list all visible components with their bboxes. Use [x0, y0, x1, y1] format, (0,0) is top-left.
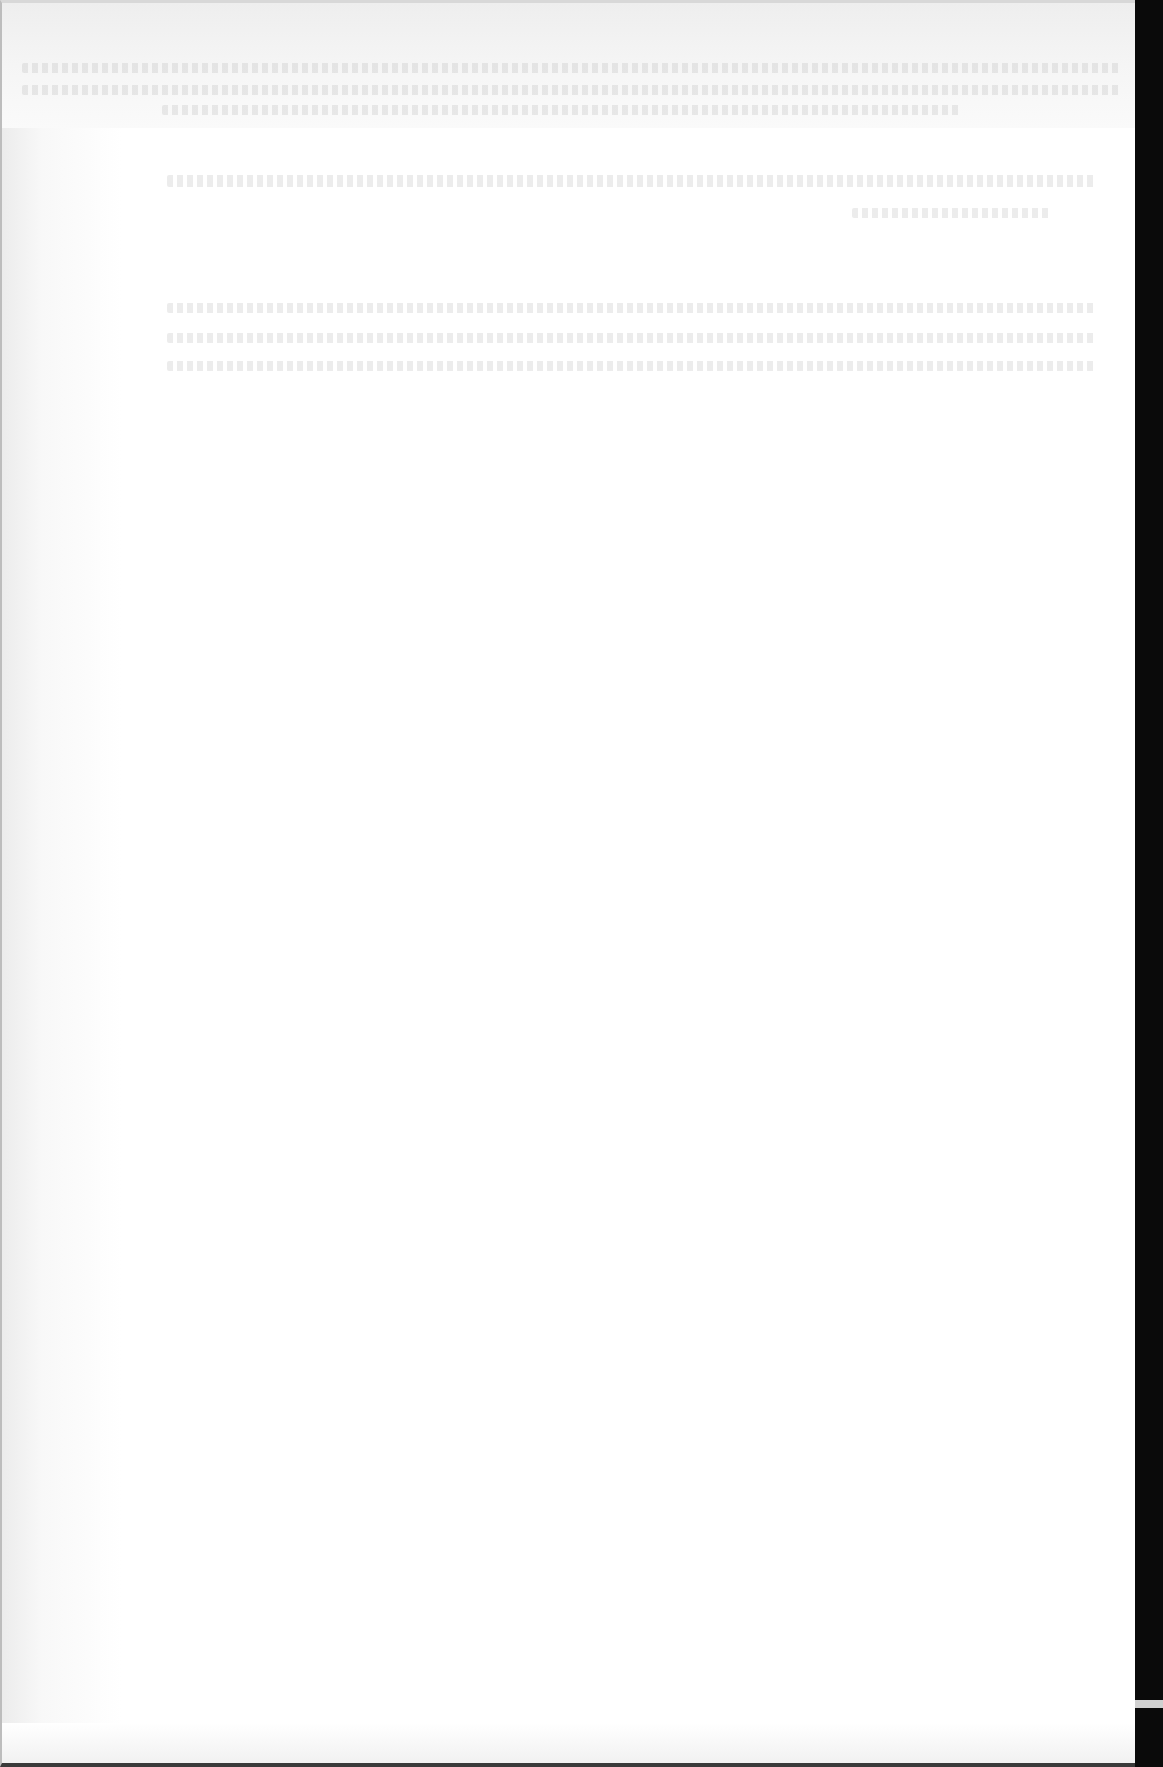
faded-text-line [22, 85, 1122, 95]
faded-text-line [162, 105, 962, 115]
scanned-page [0, 0, 1137, 1767]
faded-text-line [167, 333, 1097, 343]
faded-text-line [852, 208, 1052, 218]
faded-text-line [22, 63, 1122, 73]
faded-text-line [167, 175, 1097, 187]
page-bottom-shading [2, 1723, 1137, 1763]
scan-edge-notch [1135, 1700, 1163, 1708]
faded-text-line [167, 303, 1097, 313]
scan-edge-border [1135, 0, 1163, 1767]
faded-text-line [167, 361, 1097, 371]
